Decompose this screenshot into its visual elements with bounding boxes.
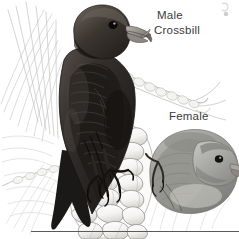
label-female: Female bbox=[169, 110, 209, 122]
label-male: Male bbox=[157, 9, 183, 21]
male-eye bbox=[108, 21, 117, 29]
crossbill-figure: Male Crossbill Female bbox=[0, 0, 239, 239]
female-eye bbox=[215, 155, 223, 163]
bottom-divider bbox=[31, 231, 239, 232]
label-crossbill: Crossbill bbox=[154, 24, 200, 36]
